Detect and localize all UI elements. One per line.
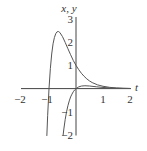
vertical-tick-label: −2 [61, 129, 73, 141]
vertical-tick-label: 3 [68, 13, 74, 25]
vertical-tick-label: 2 [68, 36, 74, 48]
t-tick-label: −2 [14, 93, 26, 105]
chart: −2−112 321−1−2 t x, y [0, 0, 147, 151]
t-tick-label: −1 [41, 93, 53, 105]
vertical-axis-ticks: 321−1−2 [61, 13, 73, 141]
vertical-axis-label: x, y [60, 2, 76, 14]
t-tick-label: 1 [100, 93, 106, 105]
curves [47, 32, 130, 136]
t-axis-label: t [135, 81, 139, 93]
series-line-x [47, 32, 130, 136]
vertical-tick-label: 1 [68, 59, 74, 71]
series-line-y [63, 86, 130, 136]
t-axis-ticks: −2−112 [14, 93, 133, 105]
vertical-tick-label: −1 [61, 106, 73, 118]
t-tick-label: 2 [127, 93, 133, 105]
